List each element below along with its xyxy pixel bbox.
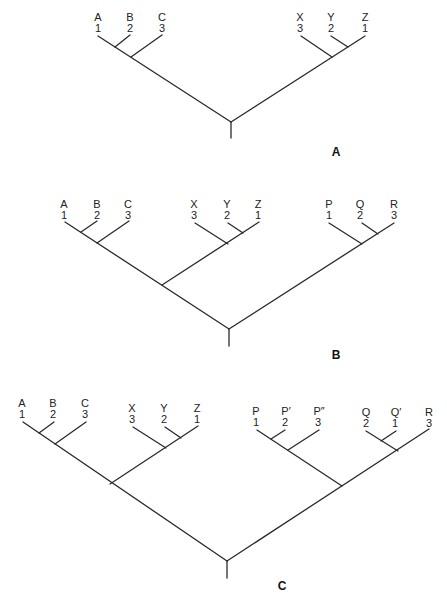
branch bbox=[301, 36, 332, 57]
taxon-order: 3 bbox=[82, 408, 88, 420]
taxon-order: 2 bbox=[224, 209, 230, 221]
taxon-order: 3 bbox=[315, 416, 321, 428]
taxon-order: 1 bbox=[194, 413, 200, 425]
branch bbox=[362, 223, 378, 234]
branch bbox=[227, 429, 429, 561]
taxon-order: 1 bbox=[362, 22, 368, 34]
branch bbox=[39, 422, 54, 433]
taxon-order: 1 bbox=[61, 209, 67, 221]
taxon-order: 3 bbox=[129, 413, 135, 425]
branch bbox=[131, 35, 162, 57]
branch bbox=[115, 35, 130, 47]
branch bbox=[257, 430, 342, 486]
branch bbox=[195, 223, 228, 244]
branch bbox=[229, 223, 394, 329]
clade-q-group: Q 2 Q′ 1 R 3 bbox=[362, 406, 433, 451]
taxon-order: 3 bbox=[159, 22, 165, 34]
branch bbox=[329, 223, 362, 244]
taxon-order: 1 bbox=[255, 209, 261, 221]
branch bbox=[162, 222, 259, 285]
branch bbox=[81, 221, 97, 232]
taxon-order: 2 bbox=[363, 417, 369, 429]
taxon-order: 3 bbox=[125, 209, 131, 221]
branch bbox=[288, 430, 319, 450]
cladogram-panel-c: A 1 B 2 C 3 X 3 Y 2 Z 1 P 1 P′ bbox=[18, 397, 433, 593]
branch bbox=[331, 36, 348, 47]
clade-abc: A 1 B 2 C 3 bbox=[94, 11, 231, 122]
cladogram-panel-a: A 1 B 2 C 3 X 3 Y 2 Z 1 A bbox=[94, 11, 368, 159]
panel-label: C bbox=[278, 579, 287, 593]
branch bbox=[65, 222, 229, 329]
branch bbox=[110, 426, 198, 484]
taxon-order: 3 bbox=[426, 417, 432, 429]
taxon-order: 1 bbox=[19, 408, 25, 420]
taxon-order: 3 bbox=[391, 209, 397, 221]
clade-abc: A 1 B 2 C 3 bbox=[60, 198, 132, 243]
clade-abc: A 1 B 2 C 3 bbox=[18, 397, 89, 444]
taxon-order: 2 bbox=[328, 22, 334, 34]
taxon-order: 2 bbox=[161, 413, 167, 425]
branch bbox=[133, 427, 166, 448]
branch bbox=[55, 422, 86, 444]
cladogram-figure: A 1 B 2 C 3 X 3 Y 2 Z 1 A A bbox=[0, 0, 447, 595]
clade-xyz: X 3 Y 2 Z 1 bbox=[162, 198, 262, 285]
clade-xyz: X 3 Y 2 Z 1 bbox=[231, 11, 369, 122]
taxon-order: 2 bbox=[50, 408, 56, 420]
taxon-order: 1 bbox=[253, 416, 259, 428]
taxon-order: 3 bbox=[191, 209, 197, 221]
branch bbox=[271, 430, 285, 439]
panel-label: A bbox=[332, 145, 341, 159]
taxon-order: 1 bbox=[326, 209, 332, 221]
taxon-order: 2 bbox=[127, 22, 133, 34]
clade-xyz: X 3 Y 2 Z 1 bbox=[110, 402, 201, 484]
panel-label: B bbox=[332, 348, 341, 362]
cladogram-panel-b: A 1 B 2 C 3 X 3 Y 2 Z 1 P 1 Q 2 bbox=[60, 198, 398, 362]
taxon-order: 2 bbox=[357, 209, 363, 221]
branch bbox=[97, 221, 129, 243]
taxon-order: 2 bbox=[282, 416, 288, 428]
taxon-order: 3 bbox=[297, 22, 303, 34]
taxon-order: 2 bbox=[94, 209, 100, 221]
taxon-order: 1 bbox=[95, 22, 101, 34]
branch bbox=[23, 422, 227, 561]
taxon-order: 1 bbox=[392, 417, 398, 429]
branch bbox=[381, 431, 396, 441]
branch bbox=[165, 427, 181, 438]
clade-p-group: P 1 P′ 2 P″ 3 bbox=[252, 405, 342, 486]
branch bbox=[228, 223, 243, 233]
branch bbox=[98, 36, 231, 122]
branch bbox=[231, 36, 365, 122]
